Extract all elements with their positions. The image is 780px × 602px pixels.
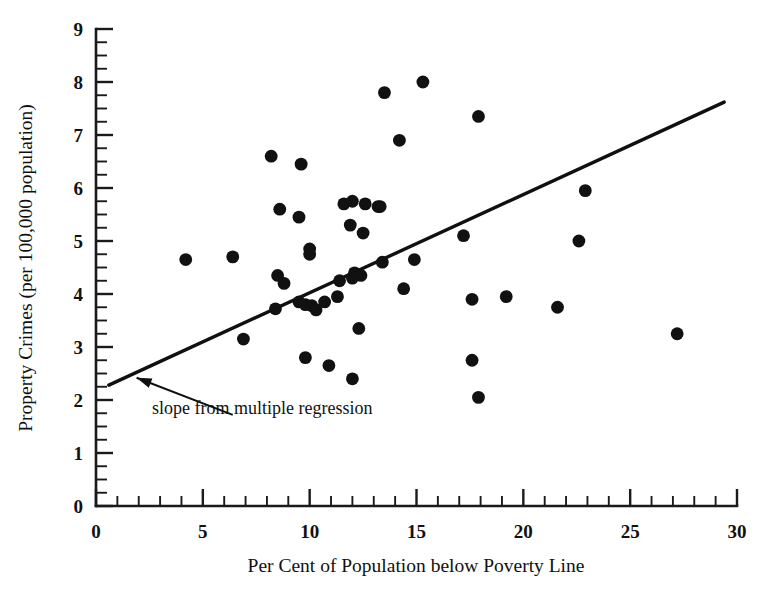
data-point [572, 235, 585, 248]
data-point [352, 322, 365, 335]
data-point [344, 219, 357, 232]
data-point [359, 198, 372, 211]
data-point [273, 203, 286, 216]
data-point [295, 158, 308, 171]
x-tick-label: 15 [407, 521, 426, 542]
data-point [265, 150, 278, 163]
y-axis-title: Property Crimes (per 100,000 population) [15, 104, 37, 432]
data-point [551, 301, 564, 314]
annotation-label: slope from multiple regression [152, 398, 372, 418]
chart-canvas: 0123456789 051015202530 slope from multi… [0, 0, 780, 602]
x-tick-label: 25 [621, 521, 640, 542]
data-point [331, 290, 344, 303]
data-point [466, 293, 479, 306]
x-tick-label: 5 [198, 521, 208, 542]
x-tick-label: 10 [300, 521, 319, 542]
y-axis-ticks [96, 29, 113, 506]
data-point [378, 86, 391, 99]
data-point [357, 227, 370, 240]
x-axis-ticks [96, 489, 737, 506]
data-point [472, 391, 485, 404]
regression-fit-line [109, 102, 724, 385]
x-axis-tick-labels: 051015202530 [91, 521, 746, 542]
y-tick-label: 5 [74, 231, 84, 252]
data-point [226, 251, 239, 264]
data-point [346, 372, 359, 385]
data-point [179, 253, 192, 266]
y-axis-tick-labels: 0123456789 [74, 19, 84, 517]
data-point [466, 354, 479, 367]
data-points [179, 76, 683, 404]
y-tick-label: 8 [74, 72, 84, 93]
arrow-head-icon [137, 378, 153, 388]
x-axis-title: Per Cent of Population below Poverty Lin… [248, 555, 585, 576]
data-point [671, 327, 684, 340]
data-point [393, 134, 406, 147]
data-point [278, 277, 291, 290]
y-tick-label: 2 [74, 390, 84, 411]
data-point [322, 359, 335, 372]
y-tick-label: 4 [74, 284, 84, 305]
data-point [500, 290, 513, 303]
data-point [397, 282, 410, 295]
x-tick-label: 30 [728, 521, 747, 542]
data-point [457, 229, 470, 242]
y-tick-label: 6 [74, 178, 84, 199]
data-point [337, 198, 350, 211]
data-point [303, 248, 316, 261]
x-tick-label: 20 [514, 521, 533, 542]
data-point [318, 296, 331, 309]
data-point [472, 110, 485, 123]
data-point [299, 351, 312, 364]
data-point [293, 211, 306, 224]
x-tick-label: 0 [91, 521, 101, 542]
y-tick-label: 9 [74, 19, 84, 40]
scatter-plot-figure: 0123456789 051015202530 slope from multi… [0, 0, 780, 602]
data-point [408, 253, 421, 266]
data-point [579, 184, 592, 197]
y-tick-label: 0 [74, 496, 84, 517]
y-tick-label: 1 [74, 443, 84, 464]
data-point [374, 200, 387, 213]
data-point [237, 333, 250, 346]
data-point [417, 76, 430, 89]
y-tick-label: 3 [74, 337, 84, 358]
y-tick-label: 7 [74, 125, 84, 146]
